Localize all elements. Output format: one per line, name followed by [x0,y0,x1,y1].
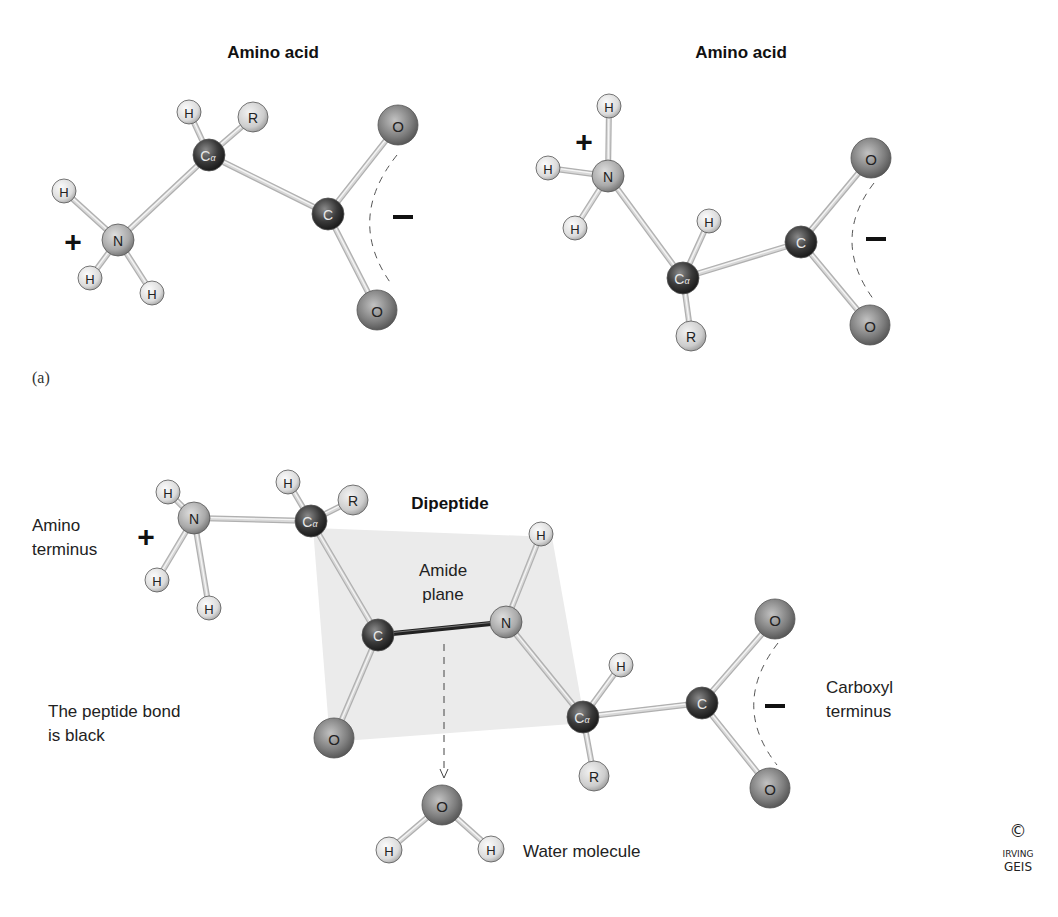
svg-text:R: R [248,110,258,126]
bonds-layer [64,105,874,850]
carbon-atom-ca2: Cα [567,701,599,733]
bond [583,702,702,717]
svg-text:C: C [796,235,806,251]
bond [209,154,328,214]
svg-text:R: R [686,329,696,345]
bond [194,517,311,521]
hydrogen-atom-h2: H [478,836,504,862]
oxygen-atom-o2: O [357,290,397,330]
nitrogen-atom-n: N [592,160,624,192]
svg-text:C: C [697,696,707,712]
svg-text:H: H [604,100,613,115]
hydrogen-atom-h1: H [156,480,180,504]
hydrogen-atom-h3: H [140,281,164,305]
oxygen-atom-o1: O [378,105,418,145]
carbon-atom-c: C [785,226,817,258]
bond [683,241,801,278]
peptide-bond-note-line1: The peptide bond [48,702,180,721]
resonance-arc [852,183,874,300]
svg-text:H: H [152,574,161,589]
r-group-atom-r2: R [579,761,609,791]
r-group-atom-r: R [676,321,706,351]
nitrogen-atom-n1: N [178,502,210,534]
carboxyl-terminus-label-line1: Carboxyl [826,678,893,697]
oxygen-atom-o3: O [750,768,790,808]
panel-label: (a) [32,369,50,387]
hydrogen-atom-h3: H [563,216,587,240]
hydrogen-atom-ha: H [697,209,721,233]
arrow-head-icon [440,769,448,778]
atoms-layer: NHHHCαHRCOONHHHCαHRCOONHHHCαHRCONHCαHRCO… [52,94,891,863]
carbon-atom-ca: Cα [667,262,699,294]
r-group-atom-r: R [238,102,268,132]
svg-text:H: H [384,844,393,859]
nitrogen-atom-n2: N [490,606,522,638]
oxygen-atom-o2: O [850,305,890,345]
peptide-bond-note-line2: is black [48,726,105,745]
r-group-atom-r1: R [338,485,368,515]
signature-line1: IRVING [1003,849,1034,859]
carbon-atom-c2: C [686,687,718,719]
svg-text:O: O [769,612,781,629]
oxygen-atom-o1: O [314,718,354,758]
svg-text:H: H [59,185,68,200]
carbon-atom-ca: Cα [193,139,225,171]
svg-text:O: O [328,731,340,748]
amide-plane-label-line1: Amide [419,561,467,580]
positive-charge-icon: + [64,225,82,258]
negative-charge-icon [765,704,785,708]
hydrogen-atom-h1: H [597,94,621,118]
peptide-bond-formation-diagram: NHHHCαHRCOONHHHCαHRCOONHHHCαHRCONHCαHRCO… [0,0,1058,917]
svg-text:O: O [764,781,776,798]
svg-text:H: H [283,476,292,491]
svg-text:H: H [147,287,156,302]
svg-text:C: C [373,628,383,644]
svg-text:H: H [184,106,193,121]
oxygen-atom-o2: O [755,599,795,639]
oxygen-atom-o: O [422,785,462,825]
svg-text:C: C [323,207,333,223]
svg-text:R: R [348,493,358,509]
svg-text:H: H [704,215,713,230]
svg-text:H: H [163,486,172,501]
amino-terminus-label-line2: terminus [32,540,97,559]
svg-text:O: O [865,151,877,168]
svg-text:H: H [570,222,579,237]
bond [118,154,209,240]
positive-charge-icon: + [137,520,155,553]
hydrogen-atom-h2: H [536,156,560,180]
amide-plane-label-line2: plane [422,585,464,604]
carboxyl-terminus-label-line2: terminus [826,702,891,721]
amino-acid-1-title: Amino acid [227,43,319,62]
artist-signature: © IRVING GEIS [1003,821,1034,874]
hydrogen-atom-ha: H [177,100,201,124]
bond [608,175,683,278]
nitrogen-atom-n: N [102,224,134,256]
svg-text:H: H [85,272,94,287]
svg-text:O: O [864,318,876,335]
svg-text:H: H [204,602,213,617]
hydrogen-atom-hn2: H [529,522,553,546]
svg-text:H: H [543,162,552,177]
negative-charge-icon [866,237,886,241]
signature-line2: GEIS [1004,860,1032,874]
water-molecule-label: Water molecule [523,842,640,861]
hydrogen-atom-ha2: H [609,653,633,677]
svg-text:H: H [616,659,625,674]
dipeptide-title: Dipeptide [411,494,488,513]
carbon-atom-ca1: Cα [295,505,327,537]
svg-text:O: O [392,118,404,135]
hydrogen-atom-ha1: H [276,470,300,494]
amino-terminus-label-line1: Amino [32,516,80,535]
resonance-arc [370,155,397,285]
svg-text:H: H [536,528,545,543]
copyright-symbol: © [1010,821,1027,841]
amino-acid-2-title: Amino acid [695,43,787,62]
svg-text:N: N [189,511,199,527]
svg-text:N: N [603,169,613,185]
svg-text:O: O [371,303,383,320]
hydrogen-atom-h2: H [78,266,102,290]
svg-text:H: H [486,843,495,858]
svg-text:O: O [436,798,448,815]
carbon-atom-c: C [312,198,344,230]
